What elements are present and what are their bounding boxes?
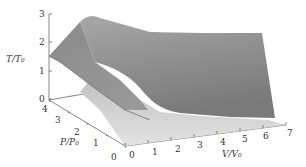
p-tick-4: 4 [42, 104, 48, 114]
v-tick-1: 1 [152, 147, 158, 157]
v-tick-6: 6 [263, 131, 269, 141]
v-tick-3: 3 [197, 140, 203, 150]
z-axis-label: T/T₀ [6, 54, 25, 64]
z-tick-3: 3 [39, 9, 45, 19]
p-tick-1: 1 [93, 138, 99, 148]
v-tick-0: 0 [129, 150, 135, 160]
v-tick-5: 5 [242, 134, 248, 144]
z-tick-1: 1 [39, 66, 45, 76]
p-tick-2: 2 [74, 127, 80, 137]
z-tick-2: 2 [39, 37, 45, 47]
p-tick-0: 0 [111, 152, 117, 162]
v-tick-2: 2 [175, 144, 181, 154]
v-axis-label: V/V₀ [222, 149, 242, 159]
surface-plot: 3 2 1 0 T/T₀ 4 3 2 1 0 P/P₀ 0 1 2 3 4 5 … [0, 0, 306, 167]
v-tick-4: 4 [220, 137, 226, 147]
p-tick-3: 3 [55, 115, 61, 125]
p-axis-label: P/P₀ [59, 137, 79, 147]
v-tick-7: 7 [287, 128, 293, 138]
z-tick-0: 0 [39, 94, 45, 104]
